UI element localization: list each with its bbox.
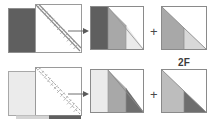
result-matrix-top: [90, 6, 144, 50]
result-matrix-bottom: [90, 69, 144, 113]
arrow-top-head: [83, 28, 89, 34]
addend-triangle-top: [161, 6, 207, 50]
addend-top-svg: [161, 6, 207, 50]
arrow-bottom: [68, 89, 90, 99]
arrow-bottom-svg: [68, 89, 90, 99]
source-left-block-top: [9, 9, 36, 53]
arrow-top-svg: [68, 26, 90, 36]
row-top: +: [0, 0, 208, 62]
result-matrix-top-svg: [90, 6, 144, 50]
row-bottom: +: [0, 63, 208, 125]
plus-sign-bottom: +: [150, 88, 158, 101]
source-bottom-bar: [49, 116, 81, 120]
result-top-band-1: [91, 7, 108, 49]
diagram-canvas: + 2F: [0, 0, 208, 125]
source-left-block-bottom: [9, 72, 36, 116]
addend-triangle-bottom: [161, 69, 207, 113]
result-matrix-bottom-svg: [90, 69, 144, 113]
result-bottom-band-1: [91, 70, 108, 112]
arrow-bottom-head: [83, 91, 89, 97]
arrow-top: [68, 26, 90, 36]
addend-bottom-svg: [161, 69, 207, 113]
plus-sign-top: +: [150, 25, 158, 38]
source-bottom-bar-light: [16, 116, 49, 120]
